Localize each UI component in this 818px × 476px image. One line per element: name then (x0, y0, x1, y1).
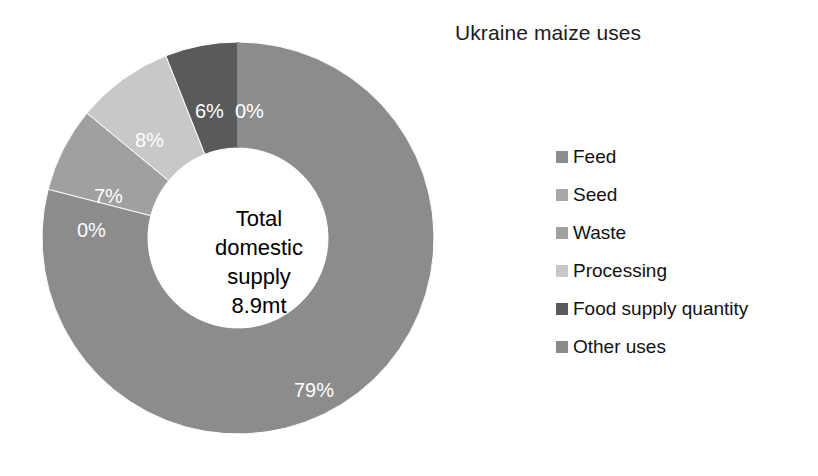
chart-title: Ukraine maize uses (455, 20, 785, 46)
legend-item-feed[interactable]: Feed (556, 138, 812, 176)
chart-legend: Feed Seed Waste Processing Food supply q… (556, 138, 812, 366)
legend-swatch-icon-seed (556, 189, 568, 201)
legend-item-food-supply-quantity[interactable]: Food supply quantity (556, 290, 812, 328)
legend-label-food-supply-quantity: Food supply quantity (573, 298, 748, 320)
donut-chart: Total domestic supply 8.9mt 79% 0% 7% 8%… (22, 22, 454, 454)
legend-swatch-icon-food-supply-quantity (556, 303, 568, 315)
legend-item-waste[interactable]: Waste (556, 214, 812, 252)
legend-item-seed[interactable]: Seed (556, 176, 812, 214)
legend-label-processing: Processing (573, 260, 667, 282)
donut-slices (42, 42, 434, 434)
legend-swatch-icon-other-uses (556, 341, 568, 353)
legend-label-feed: Feed (573, 146, 616, 168)
legend-label-other-uses: Other uses (573, 336, 666, 358)
legend-swatch-icon-feed (556, 151, 568, 163)
legend-label-waste: Waste (573, 222, 626, 244)
legend-swatch-icon-processing (556, 265, 568, 277)
legend-label-seed: Seed (573, 184, 617, 206)
legend-swatch-icon-waste (556, 227, 568, 239)
donut-svg (22, 22, 454, 454)
legend-item-processing[interactable]: Processing (556, 252, 812, 290)
chart-figure: Ukraine maize uses Total domestic supply… (0, 0, 818, 476)
legend-item-other-uses[interactable]: Other uses (556, 328, 812, 366)
